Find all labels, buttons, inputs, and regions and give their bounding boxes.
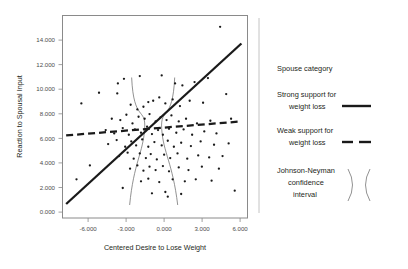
jn-curve-right — [162, 78, 178, 206]
scatter-plot: 0.000 2.000 4.000 6.000 8.000 10.000 12.… — [0, 0, 408, 269]
data-point — [180, 142, 182, 144]
data-point — [117, 82, 119, 84]
y-tick-label: 2.000 — [40, 184, 56, 191]
legend-header: Spouse category — [277, 64, 333, 73]
data-point — [161, 144, 163, 146]
data-point — [130, 104, 132, 106]
data-point — [182, 128, 184, 130]
data-point — [202, 102, 204, 104]
data-point — [147, 146, 149, 148]
data-point — [168, 170, 170, 172]
data-point — [148, 113, 150, 115]
data-point — [178, 166, 180, 168]
data-point — [123, 78, 125, 80]
data-point — [201, 166, 203, 168]
data-point — [161, 74, 163, 76]
data-point — [80, 102, 82, 104]
data-point — [164, 191, 166, 193]
legend-item-label: Johnson-Neyman — [277, 166, 335, 175]
legend-item-label: Strong support for — [277, 90, 337, 99]
data-point — [156, 158, 158, 160]
data-point — [158, 96, 160, 98]
data-point — [164, 102, 166, 104]
data-point — [209, 120, 211, 122]
data-point — [171, 178, 173, 180]
data-point — [140, 180, 142, 182]
x-axis-tick-labels: -6.000 -3.000 0.000 3.000 6.000 — [79, 225, 248, 232]
data-point — [175, 132, 177, 134]
data-point — [153, 141, 155, 143]
data-point — [171, 98, 173, 100]
legend-item-label: confidence — [288, 178, 324, 187]
y-tick-label: 14.000 — [36, 36, 55, 43]
y-tick-label: 10.000 — [36, 85, 55, 92]
data-point — [189, 100, 191, 102]
data-point — [135, 144, 137, 146]
data-point — [178, 120, 180, 122]
data-point — [207, 77, 209, 79]
data-point — [170, 114, 172, 116]
data-point — [154, 169, 156, 171]
data-point — [165, 119, 167, 121]
data-point — [179, 105, 181, 107]
data-point — [218, 168, 220, 170]
y-tick-label: 4.000 — [40, 159, 56, 166]
x-tick-label: 6.000 — [232, 225, 248, 232]
legend-item-strong-support[interactable]: Strong support for weight loss — [277, 90, 371, 111]
data-point — [176, 152, 178, 154]
data-point — [147, 101, 149, 103]
data-point — [167, 140, 169, 142]
data-point — [184, 180, 186, 182]
legend-item-weak-support[interactable]: Weak support for weight loss — [277, 126, 371, 147]
data-layer — [66, 26, 241, 205]
x-axis-ticks — [88, 218, 240, 222]
data-point — [180, 193, 182, 195]
legend-item-johnson-neyman[interactable]: Johnson-Neyman confidence interval — [277, 166, 370, 201]
data-point — [181, 84, 183, 86]
data-point — [137, 116, 139, 118]
data-point — [133, 158, 135, 160]
y-axis-ticks — [59, 40, 63, 212]
data-point — [186, 158, 188, 160]
data-point — [129, 168, 131, 170]
y-tick-label: 0.000 — [40, 208, 56, 215]
data-point — [139, 75, 141, 77]
data-point — [151, 133, 153, 135]
data-point — [131, 122, 133, 124]
x-axis-title: Centered Desire to Lose Weight — [104, 243, 206, 252]
data-point — [145, 157, 147, 159]
y-tick-label: 12.000 — [36, 61, 55, 68]
figure-container: 0.000 2.000 4.000 6.000 8.000 10.000 12.… — [0, 0, 408, 269]
data-point — [199, 140, 201, 142]
data-point — [219, 26, 221, 28]
y-tick-label: 6.000 — [40, 135, 56, 142]
legend-item-label: weight loss — [288, 102, 326, 111]
data-point — [139, 152, 141, 154]
data-point — [111, 118, 113, 120]
data-point — [195, 178, 197, 180]
y-axis-tick-labels: 0.000 2.000 4.000 6.000 8.000 10.000 12.… — [36, 36, 55, 215]
data-point — [162, 165, 164, 167]
data-point — [215, 132, 217, 134]
data-point — [197, 154, 199, 156]
data-point — [158, 181, 160, 183]
legend: Spouse category Strong support for weigh… — [259, 18, 371, 213]
data-point — [126, 152, 128, 154]
data-point — [116, 92, 118, 94]
data-point — [151, 192, 153, 194]
data-point — [191, 134, 193, 136]
data-point — [122, 127, 124, 129]
y-axis-title: Reaction to Spousal Input — [15, 75, 24, 157]
data-point — [163, 154, 165, 156]
data-point — [225, 93, 227, 95]
data-point — [152, 100, 154, 102]
data-point — [75, 178, 77, 180]
data-point — [128, 134, 130, 136]
data-point — [147, 178, 149, 180]
x-tick-label: 3.000 — [194, 225, 210, 232]
data-point — [136, 108, 138, 110]
legend-item-label: Weak support for — [277, 126, 334, 135]
data-point — [227, 142, 229, 144]
data-point — [150, 153, 152, 155]
data-point — [125, 114, 127, 116]
